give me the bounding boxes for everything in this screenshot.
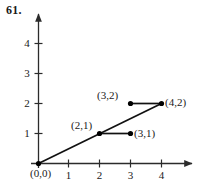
x-tick-label-1: 1 [63,170,74,181]
point-label-3-1: (3,1) [134,128,155,139]
point-3-2 [128,101,133,106]
x-tick-label-4: 4 [156,170,167,181]
point-2-1 [97,131,102,136]
point-label-4-2: (4,2) [165,97,186,108]
point-3-1 [128,131,133,136]
y-tick-label-3: 3 [22,68,32,79]
point-origin [36,161,41,166]
x-tick-label-3: 3 [125,170,136,181]
point-4-2 [159,101,164,106]
figure-canvas: 61. [0,0,202,188]
y-tick-label-2: 2 [22,98,32,109]
point-label-origin: (0,0) [30,168,51,179]
x-tick-label-2: 2 [94,170,105,181]
point-label-2-1: (2,1) [71,120,92,131]
point-label-3-2: (3,2) [97,90,118,101]
y-tick-label-4: 4 [22,38,32,49]
y-tick-label-1: 1 [22,128,32,139]
